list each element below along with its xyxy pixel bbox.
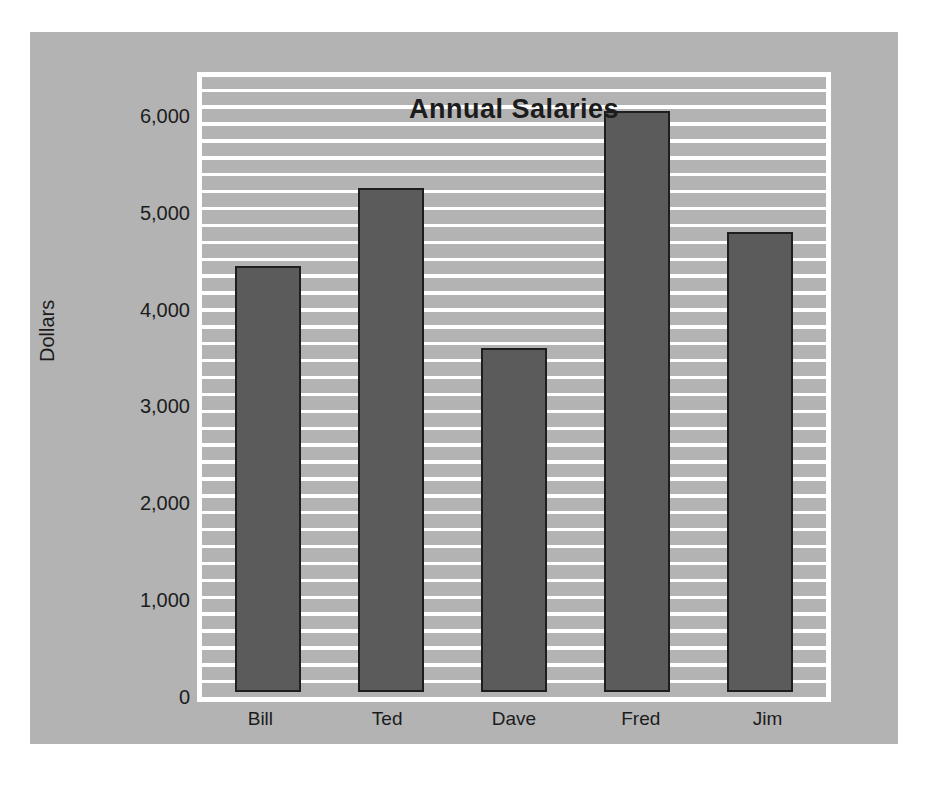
y-tick-label: 4,000 xyxy=(70,298,190,321)
chart-panel: Annual Salaries 01,0002,0003,0004,0005,0… xyxy=(30,32,898,744)
y-tick-label: 3,000 xyxy=(70,395,190,418)
y-axis-title: Dollars xyxy=(36,300,59,362)
x-tick-label-fred: Fred xyxy=(621,708,660,730)
bar-slot xyxy=(207,82,330,692)
y-tick-label: 2,000 xyxy=(70,492,190,515)
plot-area: Annual Salaries xyxy=(197,72,831,702)
bar-slot xyxy=(698,82,821,692)
bar-fred[interactable] xyxy=(604,111,670,692)
bar-bill[interactable] xyxy=(235,266,301,692)
bars-layer xyxy=(207,82,821,692)
y-tick-label: 0 xyxy=(70,686,190,709)
chart-screenshot: Annual Salaries 01,0002,0003,0004,0005,0… xyxy=(0,0,930,790)
bar-dave[interactable] xyxy=(481,348,547,692)
y-tick-label: 1,000 xyxy=(70,589,190,612)
x-tick-label-bill: Bill xyxy=(248,708,273,730)
plot-inner: Annual Salaries xyxy=(207,82,821,692)
bar-slot xyxy=(575,82,698,692)
x-tick-label-dave: Dave xyxy=(492,708,536,730)
bar-ted[interactable] xyxy=(358,188,424,692)
x-axis-tick-labels: BillTedDaveFredJim xyxy=(197,708,831,742)
y-tick-label: 6,000 xyxy=(70,104,190,127)
bar-slot xyxy=(453,82,576,692)
x-tick-label-jim: Jim xyxy=(753,708,783,730)
chart-title: Annual Salaries xyxy=(207,94,821,125)
y-axis-tick-labels: 01,0002,0003,0004,0005,0006,000 xyxy=(50,72,190,702)
bar-jim[interactable] xyxy=(727,232,793,692)
x-tick-label-ted: Ted xyxy=(372,708,403,730)
y-tick-label: 5,000 xyxy=(70,201,190,224)
bar-slot xyxy=(330,82,453,692)
